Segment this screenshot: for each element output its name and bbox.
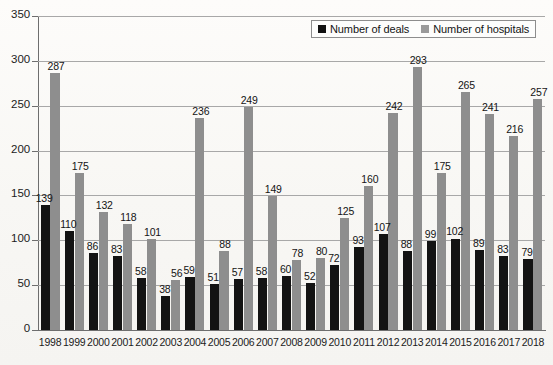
x-tick-label-2005: 2005 [207,336,231,348]
bar-hospitals [123,224,132,330]
x-tick-label-2001: 2001 [110,336,134,348]
y-tick-label-250: 250 [0,98,30,110]
y-axis-labels: 050100150200250300350 [0,0,30,365]
x-tick-label-2013: 2013 [400,336,424,348]
x-tick-label-2003: 2003 [159,336,183,348]
x-tick-label-2007: 2007 [255,336,279,348]
x-tick-label-2010: 2010 [328,336,352,348]
bar-group [330,16,349,330]
bar-value-deals: 60 [273,263,299,275]
bar-deals [65,231,74,330]
bar-value-deals: 89 [466,237,492,249]
bar-group [89,16,108,330]
x-axis-line [38,330,546,331]
bar-value-deals: 88 [393,238,419,250]
bar-group [499,16,518,330]
bar-hospitals [244,107,253,330]
bar-group [234,16,253,330]
legend-entry: Number of hospitals [421,23,529,35]
bar-deals [41,205,50,330]
x-tick-label-1998: 1998 [38,336,62,348]
bar-value-deals: 52 [297,270,323,282]
bar-value-deals: 99 [417,228,443,240]
bar-deals [113,256,122,330]
y-tick-label-300: 300 [0,53,30,65]
bar-deals [258,278,267,330]
bar-value-hospitals: 257 [526,86,552,98]
bar-deals [185,277,194,330]
legend-swatch-hospitals-icon [421,25,429,33]
bar-group [113,16,132,330]
bar-value-deals: 79 [514,246,540,258]
x-tick-label-2012: 2012 [376,336,400,348]
x-tick-label-2018: 2018 [521,336,545,348]
bar-chart: 050100150200250300350 139287110175861328… [0,0,553,365]
y-tick-label-200: 200 [0,143,30,155]
bar-hospitals [485,114,494,330]
bar-group [427,16,446,330]
bar-hospitals [195,118,204,330]
bar-hospitals [533,99,542,330]
x-tick-label-2006: 2006 [231,336,255,348]
bar-deals [523,259,532,330]
y-tick-label-100: 100 [0,232,30,244]
x-tick-label-2000: 2000 [86,336,110,348]
bar-group [258,16,277,330]
bar-group [379,16,398,330]
bar-deals [451,239,460,331]
bar-value-deals: 86 [79,240,105,252]
x-tick-label-2009: 2009 [304,336,328,348]
bar-group [523,16,542,330]
legend-entry: Number of deals [318,23,409,35]
plot-area: 1392871101758613283118581013856592365188… [38,16,545,330]
y-tick-label-350: 350 [0,8,30,20]
y-tick-label-50: 50 [0,277,30,289]
bar-deals [89,253,98,330]
bar-deals [379,234,388,330]
x-tick-label-1999: 1999 [62,336,86,348]
bar-group [65,16,84,330]
bar-deals [137,278,146,330]
bar-value-deals: 83 [104,243,130,255]
bar-value-deals: 93 [345,234,371,246]
bar-value-deals: 59 [176,264,202,276]
legend-label: Number of deals [330,23,409,35]
bar-value-deals: 139 [31,192,57,204]
chart-legend: Number of dealsNumber of hospitals [311,20,536,38]
bar-deals [403,251,412,330]
legend-swatch-deals-icon [318,25,326,33]
bar-hospitals [437,173,446,330]
x-tick-label-2008: 2008 [279,336,303,348]
bar-hospitals [364,186,373,330]
bar-deals [282,276,291,330]
x-axis-labels: 1998199920002001200220032004200520062007… [38,334,545,356]
bar-value-deals: 58 [128,265,154,277]
bar-group [475,16,494,330]
bar-value-deals: 72 [321,252,347,264]
bar-value-deals: 51 [200,271,226,283]
bar-hospitals [316,258,325,330]
x-tick-label-2017: 2017 [497,336,521,348]
bar-deals [354,247,363,330]
x-tick-label-2004: 2004 [183,336,207,348]
bar-deals [330,265,339,330]
bar-hospitals [99,212,108,330]
bar-value-deals: 58 [248,265,274,277]
bar-deals [306,283,315,330]
bar-value-deals: 38 [152,283,178,295]
bar-value-deals: 57 [224,266,250,278]
bar-deals [499,256,508,330]
bar-group [451,16,470,330]
bar-deals [475,250,484,330]
bar-deals [210,284,219,330]
x-tick-label-2015: 2015 [448,336,472,348]
bar-group [282,16,301,330]
bar-deals [427,241,436,330]
legend-label: Number of hospitals [433,23,529,35]
bar-deals [161,296,170,330]
x-tick-label-2002: 2002 [135,336,159,348]
bar-hospitals [413,67,422,330]
bar-hospitals [461,92,470,330]
x-tick-label-2014: 2014 [424,336,448,348]
bar-value-deals: 102 [442,225,468,237]
